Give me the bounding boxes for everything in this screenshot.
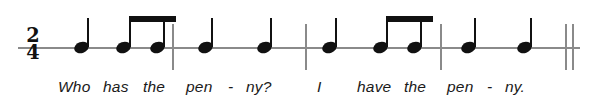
beam-group-1 — [129, 16, 176, 22]
beam-group-2 — [386, 16, 433, 22]
note-stem — [87, 18, 89, 47]
note-stem — [270, 18, 272, 47]
lyric-syllable: - — [487, 78, 492, 96]
lyric-syllable: pen — [186, 78, 212, 96]
note-stem — [530, 18, 532, 47]
time-signature-denominator: 4 — [23, 43, 43, 60]
lyric-syllable: have — [357, 78, 391, 96]
note-stem — [474, 18, 476, 47]
note-stem — [211, 18, 213, 47]
final-barline-line-1 — [565, 24, 567, 70]
lyric-syllable: ny. — [505, 78, 525, 96]
lyric-syllable: I — [317, 78, 322, 96]
lyric-syllable: the — [404, 78, 426, 96]
lyric-syllable: pen — [447, 78, 473, 96]
lyric-syllable: has — [103, 78, 129, 96]
lyric-syllable: Who — [58, 78, 90, 96]
final-barline-line-2 — [572, 24, 574, 70]
barline-2 — [305, 24, 307, 70]
staff-line — [18, 47, 580, 49]
note-stem — [335, 18, 337, 47]
lyric-syllable: - — [228, 78, 233, 96]
barline-1 — [172, 24, 174, 70]
music-notation-sheet: 2 4 Whohasthepen-ny?Ihavethepen-ny. — [0, 0, 596, 105]
lyric-syllable: the — [143, 78, 165, 96]
barline-3 — [440, 24, 442, 70]
lyric-syllable: ny? — [246, 78, 272, 96]
time-signature: 2 4 — [23, 26, 43, 60]
